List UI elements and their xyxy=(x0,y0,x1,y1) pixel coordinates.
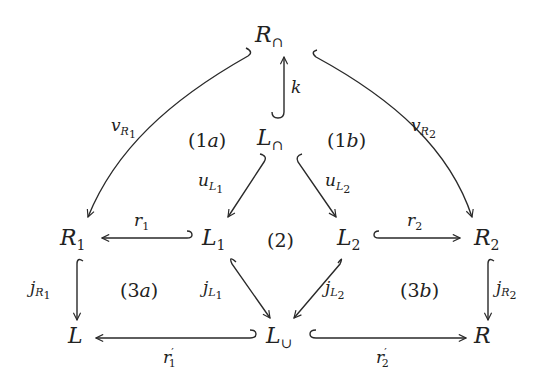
edge-r1-prime xyxy=(96,330,256,338)
edge-r2-prime xyxy=(310,330,466,338)
arrow-j-r1 xyxy=(77,260,83,320)
svg-text:L1: L1 xyxy=(201,225,226,253)
svg-text:L2: L2 xyxy=(336,225,361,253)
label-j-l2: jL2 xyxy=(321,277,345,302)
arrow-j-l1 xyxy=(231,259,270,318)
label-r1-prime: r′1 xyxy=(163,346,176,370)
label-r1: r1 xyxy=(134,210,149,233)
node-r1: R1 xyxy=(59,225,86,253)
edge-j-r1 xyxy=(77,260,83,320)
label-r2: r2 xyxy=(407,210,422,233)
svg-text:L∪: L∪ xyxy=(265,323,292,351)
label-u-l2: uL2 xyxy=(325,170,350,196)
label-v-r1: vR1 xyxy=(111,115,136,141)
region-1b: (1b) xyxy=(327,129,366,151)
svg-text:R2: R2 xyxy=(473,225,500,253)
node-r-cap: R∩ xyxy=(254,22,283,50)
svg-text:R∩: R∩ xyxy=(254,22,283,50)
arrow-u-l1 xyxy=(228,154,265,217)
node-l: L xyxy=(67,323,83,348)
svg-text:L∩: L∩ xyxy=(256,125,283,153)
svg-text:R1: R1 xyxy=(59,225,86,253)
node-r: R xyxy=(473,323,491,348)
commutative-diagram: R∩ L∩ R1 L1 L2 R2 L L∪ R xyxy=(0,0,557,391)
label-v-r2: vR2 xyxy=(411,115,436,141)
edge-j-r2 xyxy=(488,260,494,320)
region-2: (2) xyxy=(267,229,294,251)
label-k: k xyxy=(291,77,301,97)
node-l-cup: L∪ xyxy=(265,323,292,351)
region-3b: (3b) xyxy=(400,279,439,301)
region-1a: (1a) xyxy=(188,129,226,151)
arrow-r2-prime xyxy=(310,330,466,338)
label-j-l1: jL1 xyxy=(199,277,223,302)
svg-text:R: R xyxy=(473,323,491,348)
node-l-cap: L∩ xyxy=(256,125,283,153)
label-j-r1: jR1 xyxy=(26,277,51,302)
label-j-r2: jR2 xyxy=(492,277,517,302)
edge-u-l1 xyxy=(228,154,265,217)
node-l2: L2 xyxy=(336,225,361,253)
label-u-l1: uL1 xyxy=(198,170,223,196)
svg-text:L: L xyxy=(67,323,83,348)
arrow-r1-prime xyxy=(96,330,256,338)
arrow-k xyxy=(272,57,284,118)
node-l1: L1 xyxy=(201,225,226,253)
arrow-j-r2 xyxy=(488,260,494,320)
edge-j-l1 xyxy=(231,259,270,318)
node-r2: R2 xyxy=(473,225,500,253)
region-3a: (3a) xyxy=(120,279,158,301)
label-r2-prime: r′2 xyxy=(376,346,389,370)
edge-k xyxy=(272,57,284,118)
